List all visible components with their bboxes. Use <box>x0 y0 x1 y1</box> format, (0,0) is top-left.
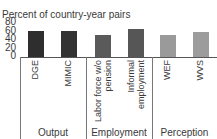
x-label-labor-force-wo-pension: Labor force w/o pension <box>91 60 115 118</box>
y-tick-0: 0 <box>2 51 16 61</box>
x-label-informal-employment: Informal employment <box>124 60 148 118</box>
bar-wef <box>160 35 176 57</box>
bar-labor-force-wo-pension <box>95 35 111 57</box>
x-label-wvs: WVS <box>189 60 213 118</box>
group-label-perception: Perception <box>152 127 217 138</box>
bar-informal-employment <box>128 29 144 57</box>
bar-mimic <box>61 31 77 57</box>
group-label-employment: Employment <box>86 127 152 138</box>
group-label-output: Output <box>20 127 86 138</box>
x-axis-line <box>20 57 217 58</box>
bar-wvs <box>193 32 209 57</box>
x-label-dge: DGE <box>24 60 48 118</box>
bar-dge <box>28 31 44 57</box>
chart-title: Percent of country-year pairs <box>2 9 130 20</box>
x-label-mimic: MIMIC <box>57 60 81 118</box>
x-label-wef: WEF <box>156 60 180 118</box>
